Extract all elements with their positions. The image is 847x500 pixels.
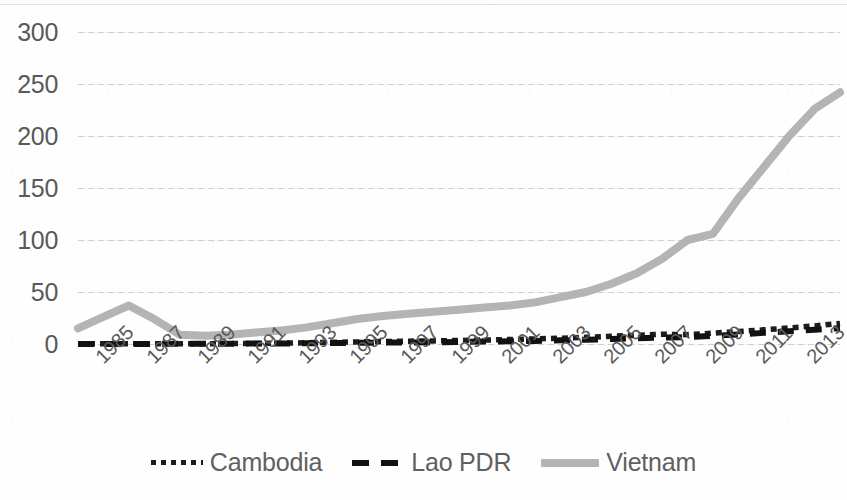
x-tick-label: 2001 — [497, 352, 513, 368]
chart-legend: CambodiaLao PDRVietnam — [0, 448, 847, 477]
x-tick-label: 1985 — [91, 352, 107, 368]
legend-label: Cambodia — [210, 448, 322, 477]
dashed-line-swatch — [352, 460, 404, 466]
y-tick-label: 150 — [0, 174, 58, 203]
legend-label: Vietnam — [606, 448, 696, 477]
legend-item-vietnam[interactable]: Vietnam — [541, 448, 696, 477]
x-tick-label: 1987 — [142, 352, 158, 368]
x-tick-label: 2013 — [802, 352, 818, 368]
x-tick-label: 1997 — [396, 352, 412, 368]
solid-thick-line-swatch — [541, 459, 599, 467]
x-tick-label: 2011 — [751, 352, 767, 368]
series-lines — [78, 32, 840, 344]
y-tick-label: 300 — [0, 18, 58, 47]
x-tick-label: 1991 — [243, 352, 259, 368]
x-tick-label: 1999 — [447, 352, 463, 368]
y-tick-label: 0 — [0, 330, 58, 359]
legend-item-lao-pdr[interactable]: Lao PDR — [352, 448, 511, 477]
series-line-vietnam — [78, 92, 840, 335]
x-tick-label: 2005 — [599, 352, 615, 368]
y-tick-label: 250 — [0, 70, 58, 99]
legend-item-cambodia[interactable]: Cambodia — [151, 448, 322, 477]
y-tick-label: 200 — [0, 122, 58, 151]
x-tick-label: 2009 — [701, 352, 717, 368]
y-tick-label: 100 — [0, 226, 58, 255]
x-tick-label: 2007 — [650, 352, 666, 368]
chart-figure: 050100150200250300 198519871989199119931… — [0, 0, 847, 500]
x-tick-label: 2003 — [548, 352, 564, 368]
legend-label: Lao PDR — [411, 448, 511, 477]
x-tick-label: 1995 — [345, 352, 361, 368]
plot-area — [78, 32, 840, 344]
plot-wrapper: 050100150200250300 198519871989199119931… — [0, 0, 847, 500]
dotted-line-swatch — [151, 460, 203, 465]
x-tick-label: 1989 — [193, 352, 209, 368]
x-tick-label: 1993 — [294, 352, 310, 368]
y-tick-label: 50 — [0, 278, 58, 307]
